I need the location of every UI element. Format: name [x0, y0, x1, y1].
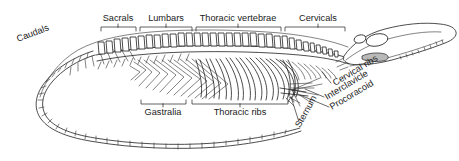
label-gastralia: Gastralia [145, 107, 183, 117]
label-cervicals: Cervicals [299, 13, 337, 23]
bracket-sacrals [101, 24, 136, 31]
skeleton-diagram: Caudals Sacrals Lumbars Thoracic vertebr… [0, 0, 459, 161]
bracket-lumbars [140, 24, 192, 31]
label-thoracic-ribs: Thoracic ribs [214, 107, 267, 117]
bracket-gastralia [141, 100, 186, 107]
dorsal-contour [40, 30, 348, 97]
label-sacrals: Sacrals [103, 13, 134, 23]
labels: Caudals Sacrals Lumbars Thoracic vertebr… [15, 13, 380, 129]
cervical-ribs-bones [286, 61, 336, 80]
leader-cervical-ribs [322, 72, 331, 83]
label-thoracic-vertebrae: Thoracic vertebrae [200, 13, 277, 23]
label-lumbars: Lumbars [148, 13, 184, 23]
skull [336, 23, 456, 70]
label-sternum: Sternum [293, 93, 319, 129]
skeleton-illustration [36, 23, 456, 149]
bracket-cervicals [285, 24, 345, 31]
ribs [196, 58, 298, 100]
label-caudals: Caudals [15, 22, 50, 44]
bracket-thoracic-ribs [192, 100, 288, 107]
neural-spines [98, 33, 338, 57]
